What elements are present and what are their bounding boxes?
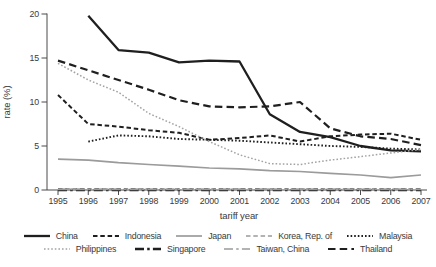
- legend-swatch-taiwan-china: [224, 246, 250, 252]
- y-tick-label: 0: [34, 185, 39, 195]
- legend-label-philippines: Philippines: [76, 244, 116, 254]
- legend-item-singapore: Singapore: [135, 244, 205, 254]
- legend-label-korea-rep-of: Korea, Rep. of: [278, 231, 332, 241]
- y-tick-label: 20: [30, 9, 40, 19]
- legend-swatch-thailand: [328, 246, 354, 252]
- legend-label-taiwan-china: Taiwan, China: [256, 244, 309, 254]
- y-axis-title: rate (%): [1, 86, 12, 119]
- legend-label-indonesia: Indonesia: [125, 231, 161, 241]
- line-chart-canvas: rate (%) tariff year 0510152019951996199…: [0, 0, 436, 231]
- legend-item-taiwan-china: Taiwan, China: [224, 244, 309, 254]
- legend-item-malaysia: Malaysia: [347, 231, 412, 241]
- legend-swatch-philippines: [44, 246, 70, 252]
- x-tick-label: 2007: [412, 196, 431, 206]
- legend-item-philippines: Philippines: [44, 244, 116, 254]
- x-tick-label: 1997: [109, 196, 128, 206]
- y-tick-label: 15: [30, 53, 40, 63]
- series-line-china: [88, 16, 421, 152]
- legend-row-2: PhilippinesSingaporeTaiwan, ChinaThailan…: [44, 244, 392, 254]
- x-tick-label: 2003: [291, 196, 310, 206]
- series-line-thailand: [58, 61, 421, 146]
- x-tick-label: 2005: [351, 196, 370, 206]
- x-tick-label: 1996: [79, 196, 98, 206]
- x-axis-title: tariff year: [220, 210, 258, 221]
- legend-swatch-singapore: [135, 246, 161, 252]
- legend-label-malaysia: Malaysia: [379, 231, 412, 241]
- legend-item-china: China: [24, 231, 78, 241]
- series-line-philippines: [58, 63, 421, 164]
- x-tick-label: 2001: [230, 196, 249, 206]
- legend-swatch-china: [24, 233, 50, 239]
- legend-label-thailand: Thailand: [360, 244, 392, 254]
- plot-area: 0510152019951996199719981999200020012002…: [30, 9, 431, 206]
- legend-item-japan: Japan: [176, 231, 231, 241]
- tariff-rate-line-chart-figure: rate (%) tariff year 0510152019951996199…: [0, 0, 436, 267]
- legend-swatch-japan: [176, 233, 202, 239]
- legend-swatch-korea-rep-of: [246, 233, 272, 239]
- x-tick-label: 2002: [260, 196, 279, 206]
- legend-item-korea-rep-of: Korea, Rep. of: [246, 231, 332, 241]
- legend-item-indonesia: Indonesia: [93, 231, 161, 241]
- legend-label-china: China: [56, 231, 78, 241]
- x-tick-label: 1999: [170, 196, 189, 206]
- series-line-indonesia: [58, 95, 421, 142]
- x-tick-label: 2004: [321, 196, 340, 206]
- x-tick-label: 1995: [49, 196, 68, 206]
- legend-row-1: ChinaIndonesiaJapanKorea, Rep. ofMalaysi…: [24, 231, 412, 241]
- chart-legend: ChinaIndonesiaJapanKorea, Rep. ofMalaysi…: [0, 231, 436, 254]
- y-tick-label: 5: [34, 141, 39, 151]
- legend-label-singapore: Singapore: [167, 244, 205, 254]
- x-tick-label: 2000: [200, 196, 219, 206]
- legend-swatch-indonesia: [93, 233, 119, 239]
- series-line-japan: [58, 159, 421, 178]
- y-tick-label: 10: [30, 97, 40, 107]
- x-tick-label: 1998: [139, 196, 158, 206]
- legend-item-thailand: Thailand: [328, 244, 392, 254]
- legend-label-japan: Japan: [208, 231, 231, 241]
- legend-swatch-malaysia: [347, 233, 373, 239]
- x-tick-label: 2006: [381, 196, 400, 206]
